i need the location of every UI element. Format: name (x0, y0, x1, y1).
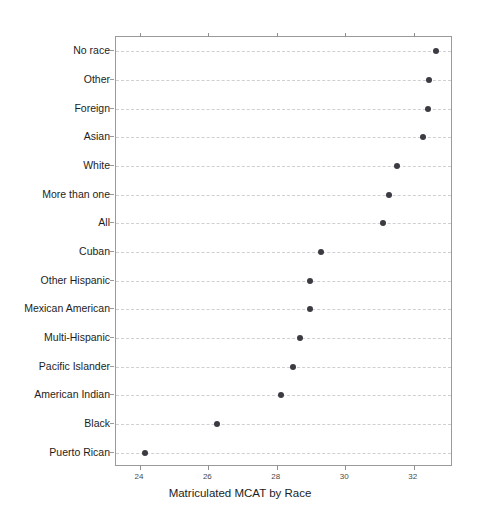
x-tick-bottom (140, 465, 141, 470)
gridline (116, 453, 451, 454)
x-tick-bottom (277, 465, 278, 470)
y-tick (110, 394, 114, 395)
y-axis-label: White (0, 159, 110, 171)
gridline (116, 338, 451, 339)
x-tick-top (277, 33, 278, 37)
gridline (116, 252, 451, 253)
x-tick-bottom (345, 465, 346, 470)
y-tick (110, 50, 114, 51)
y-axis-label: Mexican American (0, 302, 110, 314)
y-tick (110, 251, 114, 252)
gridline (116, 137, 451, 138)
x-tick-top (345, 33, 346, 37)
y-axis-label: Black (0, 417, 110, 429)
plot-area (115, 36, 452, 466)
gridline (116, 80, 451, 81)
y-axis-label: Asian (0, 130, 110, 142)
y-tick (110, 136, 114, 137)
x-tick-bottom (414, 465, 415, 470)
y-axis-label: More than one (0, 188, 110, 200)
x-tick-label: 32 (408, 472, 417, 481)
data-point (425, 106, 431, 112)
x-tick-label: 24 (134, 472, 143, 481)
y-axis-label: Other Hispanic (0, 274, 110, 286)
y-axis-label: Other (0, 73, 110, 85)
gridline (116, 309, 451, 310)
y-axis-label: All (0, 216, 110, 228)
data-point (386, 192, 392, 198)
x-tick-top (208, 33, 209, 37)
gridline (116, 367, 451, 368)
data-point (297, 335, 303, 341)
y-axis-label: No race (0, 44, 110, 56)
gridline (116, 281, 451, 282)
y-tick (110, 280, 114, 281)
gridline (116, 424, 451, 425)
data-point (394, 163, 400, 169)
data-point (307, 278, 313, 284)
y-tick (110, 165, 114, 166)
x-tick-label: 26 (203, 472, 212, 481)
y-tick (110, 222, 114, 223)
y-axis-label: Pacific Islander (0, 360, 110, 372)
y-axis-label: Multi-Hispanic (0, 331, 110, 343)
mcat-by-race-dot-chart: No raceOtherForeignAsianWhiteMore than o… (0, 0, 480, 526)
gridline (116, 51, 451, 52)
y-tick (110, 194, 114, 195)
y-axis-label: American Indian (0, 388, 110, 400)
y-tick (110, 79, 114, 80)
data-point (433, 48, 439, 54)
y-tick (110, 337, 114, 338)
x-tick-bottom (208, 465, 209, 470)
gridline (116, 195, 451, 196)
data-point (278, 392, 284, 398)
data-point (142, 450, 148, 456)
gridline (116, 109, 451, 110)
data-point (420, 134, 426, 140)
y-tick (110, 452, 114, 453)
y-axis-label: Puerto Rican (0, 446, 110, 458)
data-point (380, 220, 386, 226)
data-point (426, 77, 432, 83)
y-tick (110, 308, 114, 309)
data-point (290, 364, 296, 370)
x-tick-label: 28 (271, 472, 280, 481)
gridline (116, 223, 451, 224)
x-tick-top (414, 33, 415, 37)
y-axis-label: Foreign (0, 102, 110, 114)
y-axis-label: Cuban (0, 245, 110, 257)
y-tick (110, 108, 114, 109)
y-tick (110, 366, 114, 367)
x-tick-top (140, 33, 141, 37)
gridline (116, 166, 451, 167)
data-point (214, 421, 220, 427)
x-axis-title: Matriculated MCAT by Race (0, 487, 480, 499)
data-point (307, 306, 313, 312)
data-point (318, 249, 324, 255)
y-tick (110, 423, 114, 424)
x-tick-label: 30 (340, 472, 349, 481)
